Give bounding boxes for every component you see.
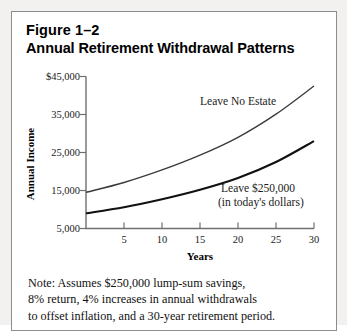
x-axis-title: Years	[187, 250, 214, 262]
x-tick-label-10: 10	[157, 234, 168, 245]
note-line-2: 8% return, 4% increases in annual withdr…	[28, 291, 328, 307]
series-sublabel-leave-250000: (in today's dollars)	[218, 196, 304, 209]
series-label-leave-250000: Leave $250,000	[221, 182, 295, 195]
y-tick-label-5000: 5,000	[56, 223, 80, 234]
y-tick-label-45000: $45,000	[46, 71, 80, 82]
y-tick-label-25000: 25,000	[51, 147, 80, 158]
series-label-leave-no-estate: Leave No Estate	[200, 95, 276, 107]
y-axis-title: Annual Income	[24, 128, 36, 201]
note-line-1: Note: Assumes $250,000 lump-sum savings,	[28, 275, 328, 291]
x-tick-label-15: 15	[195, 234, 206, 245]
note-line-3: to offset inflation, and a 30-year retir…	[28, 308, 328, 324]
x-tick-label-25: 25	[271, 234, 282, 245]
chart-plot-area: Annual Income $45,000 35,000 25,000 15,0…	[12, 12, 338, 274]
figure-note: Note: Assumes $250,000 lump-sum savings,…	[28, 275, 328, 324]
y-tick-label-15000: 15,000	[51, 185, 80, 196]
y-tick-label-35000: 35,000	[51, 109, 80, 120]
x-tick-label-30: 30	[309, 234, 320, 245]
figure-container: Figure 1–2 Annual Retirement Withdrawal …	[11, 11, 337, 331]
retirement-withdrawal-line-chart: Annual Income $45,000 35,000 25,000 15,0…	[12, 12, 338, 274]
x-tick-label-5: 5	[121, 234, 126, 245]
x-tick-label-20: 20	[233, 234, 244, 245]
